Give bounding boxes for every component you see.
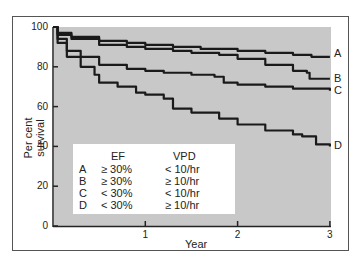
- curve-label-c: C: [334, 84, 342, 96]
- plot-area: [0, 0, 360, 264]
- curve-label-d: D: [334, 139, 342, 151]
- legend-vpd: < 10/hr: [165, 187, 200, 199]
- x-axis-title: Year: [185, 238, 207, 250]
- legend: EF VPD A≥ 30%< 10/hrB≥ 30%≥ 10/hrC< 30%<…: [73, 144, 235, 214]
- legend-header-vpd: VPD: [173, 150, 196, 162]
- y-axis-title: Per cent survival: [22, 98, 46, 178]
- curve-label-a: A: [334, 47, 341, 59]
- legend-ef: ≥ 30%: [101, 163, 132, 175]
- legend-ef: < 30%: [101, 187, 133, 199]
- y-tick-label: 80: [24, 61, 48, 72]
- x-tick-label: 3: [322, 229, 338, 240]
- y-tick-label: 100: [24, 21, 48, 32]
- x-tick-label: 2: [230, 229, 246, 240]
- legend-ef: ≥ 30%: [101, 175, 132, 187]
- legend-label: A: [79, 163, 86, 175]
- legend-vpd: < 10/hr: [165, 163, 200, 175]
- legend-vpd: ≥ 10/hr: [165, 175, 199, 187]
- y-tick-label: 20: [24, 180, 48, 191]
- y-tick-label: 0: [24, 220, 48, 231]
- curve-label-b: B: [334, 72, 341, 84]
- legend-label: C: [79, 187, 87, 199]
- legend-ef: < 30%: [101, 199, 133, 211]
- legend-label: B: [79, 175, 86, 187]
- legend-vpd: ≥ 10/hr: [165, 199, 199, 211]
- legend-label: D: [79, 199, 87, 211]
- x-tick-label: 1: [137, 229, 153, 240]
- legend-header-ef: EF: [111, 150, 125, 162]
